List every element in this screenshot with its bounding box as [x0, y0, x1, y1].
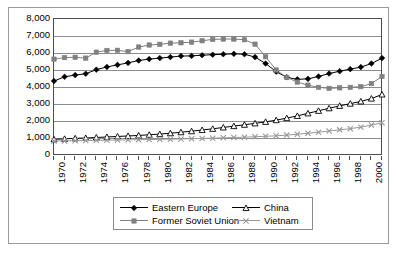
y-axis-tick-2000: 2,000	[4, 115, 50, 124]
x-axis-tick-mark	[254, 156, 255, 160]
x-axis-tick-2000: 2000	[374, 162, 383, 183]
x-axis-tick-mark	[148, 156, 149, 160]
legend-label: Former Soviet Union	[152, 216, 239, 226]
y-axis-tick-8000: 8,000	[4, 13, 50, 22]
x-axis-tick-labels: 1970197219741976197819801982198419861988…	[53, 156, 382, 196]
x-axis-tick-mark	[64, 156, 65, 160]
x-axis-tick-1974: 1974	[99, 162, 108, 183]
legend-marker-x-icon	[232, 215, 260, 227]
legend-marker-triangle-icon	[232, 202, 260, 214]
series-former-soviet-union	[52, 37, 384, 91]
x-axis-tick-mark	[85, 156, 86, 160]
y-axis-tick-labels: 8,0007,0006,0005,0004,0003,0002,0001,000…	[0, 0, 50, 253]
legend-label: Vietnam	[264, 216, 299, 226]
legend-label: Eastern Europe	[152, 203, 218, 213]
x-axis-tick-mark	[180, 156, 181, 160]
x-axis-tick-mark	[212, 156, 213, 160]
x-axis-tick-1990: 1990	[269, 162, 278, 183]
series-vietnam	[51, 120, 384, 144]
x-axis-tick-mark	[233, 156, 234, 160]
x-axis-tick-mark	[138, 156, 139, 160]
legend-item-former-soviet-union[interactable]: Former Soviet Union	[120, 214, 239, 228]
x-axis-tick-mark	[106, 156, 107, 160]
x-axis-tick-1996: 1996	[332, 162, 341, 183]
x-axis-tick-mark	[360, 156, 361, 160]
x-axis-tick-mark	[370, 156, 371, 160]
legend-item-eastern-europe[interactable]: Eastern Europe	[120, 201, 218, 215]
x-axis-tick-mark	[127, 156, 128, 160]
x-axis-tick-1980: 1980	[163, 162, 172, 183]
x-axis-tick-mark	[222, 156, 223, 160]
y-axis-tick-5000: 5,000	[4, 64, 50, 73]
x-axis-tick-1978: 1978	[142, 162, 151, 183]
chart-legend: Eastern EuropeFormer Soviet UnionChinaVi…	[113, 197, 313, 230]
x-axis-tick-mark	[275, 156, 276, 160]
x-axis-tick-mark	[296, 156, 297, 160]
y-axis-tick-0: 0	[4, 149, 50, 158]
x-axis-tick-mark	[318, 156, 319, 160]
plot-inner	[54, 19, 381, 154]
x-axis-tick-mark	[339, 156, 340, 160]
x-axis-tick-mark	[328, 156, 329, 160]
x-axis-tick-mark	[243, 156, 244, 160]
legend-item-china[interactable]: China	[232, 201, 289, 215]
y-axis-tick-4000: 4,000	[4, 81, 50, 90]
x-axis-tick-mark	[116, 156, 117, 160]
x-axis-tick-1976: 1976	[120, 162, 129, 183]
x-axis-tick-mark	[381, 156, 382, 160]
y-axis-tick-6000: 6,000	[4, 47, 50, 56]
x-axis-tick-mark	[201, 156, 202, 160]
y-axis-tick-3000: 3,000	[4, 98, 50, 107]
x-axis-tick-mark	[169, 156, 170, 160]
x-axis-tick-mark	[307, 156, 308, 160]
legend-marker-square-icon	[120, 215, 148, 227]
x-axis-tick-1994: 1994	[311, 162, 320, 183]
x-axis-tick-1992: 1992	[290, 162, 299, 183]
x-axis-tick-1986: 1986	[226, 162, 235, 183]
x-axis-tick-mark	[74, 156, 75, 160]
x-axis-tick-mark	[191, 156, 192, 160]
x-axis-tick-mark	[349, 156, 350, 160]
x-axis-tick-1998: 1998	[353, 162, 362, 183]
x-axis-tick-mark	[286, 156, 287, 160]
y-axis-tick-7000: 7,000	[4, 30, 50, 39]
x-axis-tick-1970: 1970	[57, 162, 66, 183]
series-layer	[54, 19, 383, 156]
legend-marker-diamond-icon	[120, 202, 148, 214]
x-axis-tick-1984: 1984	[205, 162, 214, 183]
x-axis-tick-1982: 1982	[184, 162, 193, 183]
x-axis-tick-mark	[53, 156, 54, 160]
x-axis-tick-1988: 1988	[247, 162, 256, 183]
x-axis-tick-mark	[159, 156, 160, 160]
chart-screenshot: 8,0007,0006,0005,0004,0003,0002,0001,000…	[0, 0, 398, 253]
legend-item-vietnam[interactable]: Vietnam	[232, 214, 299, 228]
x-axis-tick-mark	[95, 156, 96, 160]
series-eastern-europe	[51, 51, 385, 84]
x-axis-tick-1972: 1972	[78, 162, 87, 183]
series-china	[51, 91, 385, 141]
y-axis-tick-1000: 1,000	[4, 132, 50, 141]
plot-area	[53, 18, 382, 155]
x-axis-tick-mark	[265, 156, 266, 160]
legend-label: China	[264, 203, 289, 213]
